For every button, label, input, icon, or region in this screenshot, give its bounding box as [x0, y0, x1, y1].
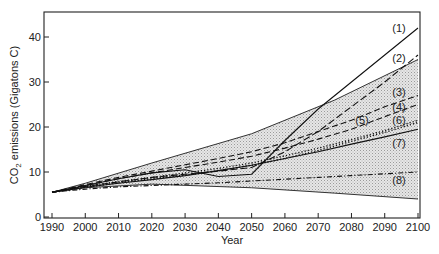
x-axis: 1990200020102020203020402050206020702080… [40, 213, 430, 233]
scenario-range-band [52, 60, 418, 200]
y-tick-label: 20 [29, 121, 41, 133]
x-tick-label: 2040 [206, 221, 230, 233]
x-tick-label: 2090 [372, 221, 396, 233]
series-label-6: (6) [392, 114, 405, 126]
shaded-range [52, 60, 418, 200]
x-tick-label: 1990 [40, 221, 64, 233]
x-tick-label: 2080 [339, 221, 363, 233]
x-axis-title: Year [221, 234, 244, 246]
x-tick-label: 2000 [73, 221, 97, 233]
x-tick-label: 2100 [406, 221, 430, 233]
y-axis-title: CO2 emissions (Gigatons C) [8, 46, 23, 184]
x-tick-label: 2020 [140, 221, 164, 233]
series-label-7: (7) [392, 137, 405, 149]
series-label-4: (4) [392, 101, 405, 113]
x-tick-label: 2070 [306, 221, 330, 233]
y-tick-label: 30 [29, 76, 41, 88]
x-tick-label: 2060 [273, 221, 297, 233]
series-label-8: (8) [392, 174, 405, 186]
co2-emissions-chart: 010203040 199020002010202020302040205020… [0, 0, 439, 254]
series-label-2: (2) [392, 52, 405, 64]
y-tick-label: 10 [29, 166, 41, 178]
x-tick-label: 2030 [173, 221, 197, 233]
y-tick-label: 40 [29, 31, 41, 43]
y-axis: 010203040 [29, 31, 49, 223]
series-label-5: (5) [355, 114, 368, 126]
x-tick-label: 2050 [239, 221, 263, 233]
series-label-1: (1) [392, 22, 405, 34]
x-tick-label: 2010 [106, 221, 130, 233]
series-label-3: (3) [392, 86, 405, 98]
